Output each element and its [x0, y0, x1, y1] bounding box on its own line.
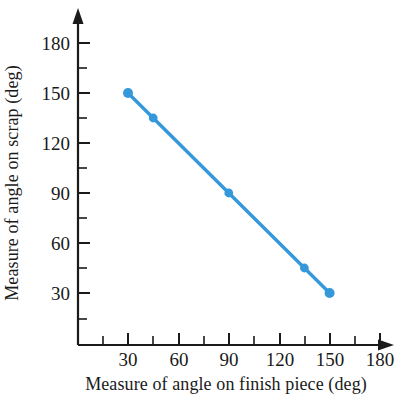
x-tick-label: 180: [366, 349, 395, 370]
data-point: [149, 114, 158, 123]
y-tick-label: 90: [51, 183, 70, 204]
x-tick-label: 150: [316, 349, 345, 370]
x-axis-title: Measure of angle on finish piece (deg): [85, 374, 367, 395]
x-tick-label: 90: [220, 349, 239, 370]
y-tick-labels: 30 60 90 120 150 180: [42, 33, 71, 304]
y-tick-label: 120: [42, 133, 71, 154]
y-tick-label: 180: [42, 33, 71, 54]
x-tick-label: 120: [266, 349, 295, 370]
x-tick-label: 30: [119, 349, 138, 370]
y-axis-ticks: [78, 43, 90, 319]
y-axis-title: Measure of angle on scrap (deg): [2, 65, 23, 301]
x-tick-labels: 30 60 90 120 150 180: [119, 349, 395, 370]
y-tick-label: 30: [51, 283, 70, 304]
y-tick-label: 150: [42, 83, 71, 104]
chart-figure: 30 60 90 120 150 180 30 60 90 120 150 18…: [0, 0, 400, 396]
data-point: [325, 288, 335, 298]
data-point: [224, 189, 233, 198]
x-axis-ticks: [103, 333, 380, 345]
x-tick-label: 60: [170, 349, 189, 370]
series-points: [123, 88, 335, 298]
data-point: [123, 88, 133, 98]
line-chart: 30 60 90 120 150 180 30 60 90 120 150 18…: [0, 0, 400, 396]
data-point: [300, 264, 309, 273]
data-series: [123, 88, 335, 298]
y-axis-arrow-icon: [73, 8, 84, 24]
y-tick-label: 60: [51, 233, 70, 254]
y-axis: [73, 8, 84, 345]
